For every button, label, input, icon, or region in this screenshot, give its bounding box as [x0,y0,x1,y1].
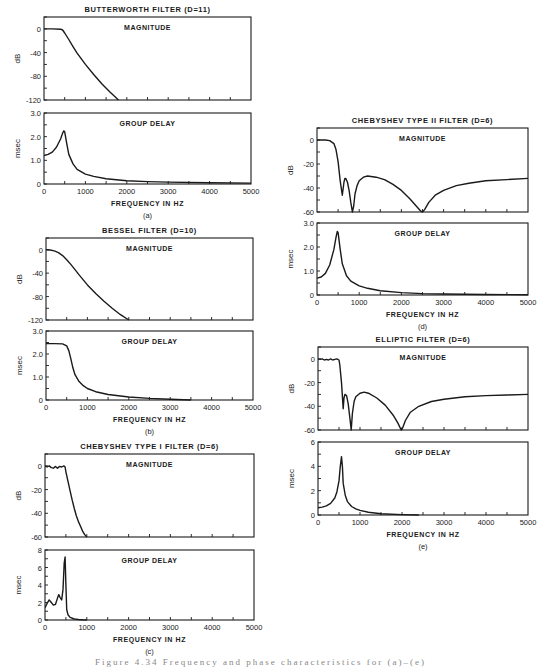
data-curve [44,29,119,100]
y-axis-label: msec [13,139,22,158]
chart-title: BESSEL FILTER (D=10) [102,226,197,235]
y-tick-label: 3.0 [304,219,314,228]
x-axis-label: FREQUENCY IN HZ [386,311,459,319]
panel-group-delay: 0246msecGROUP DELAY [287,438,528,520]
x-tick-label: 1000 [79,403,96,412]
y-tick-label: 0 [37,25,41,34]
chart-title: CHEBYSHEV TYPE II FILTER (D=6) [352,116,493,125]
panel-magnitude: 0-40-80-120dBMAGNITUDE [13,17,251,105]
y-axis-label: dB [287,384,296,394]
x-tick-label: 0 [315,298,319,307]
data-curve [44,131,251,183]
y-tick-label: -40 [303,184,314,193]
y-tick-label: -40 [304,402,315,411]
y-tick-label: 3.0 [31,109,41,118]
y-tick-label: 0 [37,180,41,189]
y-tick-label: 0 [310,291,314,300]
panel-name: GROUP DELAY [121,557,177,564]
chart-a: BUTTERWORTH FILTER (D=11)0-40-80-120dBMA… [13,5,259,220]
x-tick-label: 0 [43,623,47,632]
subfigure-label: (e) [418,542,428,551]
y-tick-label: 0 [39,396,43,405]
panel-group-delay: 01.02.03.0msecGROUP DELAY [286,219,528,300]
panel-magnitude: 0-40-80-120dBMAGNITUDE [15,238,253,325]
y-tick-label: 1.0 [304,267,314,276]
subfigure-label: (c) [145,647,154,656]
y-tick-label: 2.0 [33,350,43,359]
x-axis-label: FREQUENCY IN HZ [113,636,186,644]
x-tick-label: 5000 [246,623,263,632]
x-tick-label: 0 [42,187,46,196]
y-axis-label: dB [15,274,24,284]
y-tick-label: -80 [30,72,41,81]
x-tick-label: 3000 [436,518,453,527]
y-axis-label: msec [15,356,24,375]
y-tick-label: -60 [304,426,315,435]
chart-d: CHEBYSHEV TYPE II FILTER (D=6)0-20-40-60… [286,116,536,331]
data-curve [46,250,129,320]
data-curve [317,231,528,294]
subfigure-label: (b) [145,427,155,436]
panel-name: MAGNITUDE [400,354,447,361]
x-tick-label: 4000 [203,403,220,412]
x-tick-label: 2000 [118,187,135,196]
y-axis-label: dB [14,491,23,501]
x-tick-label: 3000 [162,623,179,632]
x-tick-label: 3000 [435,298,452,307]
y-axis-label: msec [286,249,295,268]
panel-name: MAGNITUDE [124,24,171,31]
y-tick-label: 0 [39,246,43,255]
panel-magnitude: 0-20-40-60dBMAGNITUDE [286,128,528,217]
y-axis-label: msec [287,469,296,488]
y-axis-label: msec [14,575,23,594]
y-tick-label: -40 [32,269,43,278]
panel-group-delay: 01.02.03.0msecGROUP DELAY [13,109,251,189]
x-tick-label: 2000 [120,623,137,632]
y-tick-label: -20 [31,486,42,495]
y-tick-label: -20 [303,160,314,169]
panel-name: MAGNITUDE [399,135,446,142]
y-tick-label: 2.0 [304,243,314,252]
y-tick-label: 0 [311,511,315,520]
panel-name: MAGNITUDE [126,245,173,252]
data-curve [317,140,528,212]
y-tick-label: 6 [311,438,315,447]
subfigure-label: (a) [143,211,153,220]
panel-name: GROUP DELAY [394,230,450,237]
y-tick-label: 3.0 [33,327,43,336]
y-tick-label: 1.0 [33,373,43,382]
x-tick-label: 3000 [160,187,177,196]
x-tick-label: 5000 [520,298,537,307]
panel-group-delay: 02468msecGROUP DELAY [14,546,254,625]
y-axis-label: dB [286,165,295,175]
y-tick-label: -20 [304,379,315,388]
subfigure-label: (d) [418,322,428,331]
panel-magnitude: 0-20-40-60dBMAGNITUDE [287,347,528,435]
x-tick-label: 5000 [243,187,260,196]
y-tick-label: 2 [311,487,315,496]
x-tick-label: 1000 [77,187,94,196]
panel-name: GROUP DELAY [119,120,175,127]
y-tick-label: 2.0 [31,133,41,142]
y-tick-label: 4 [311,462,315,471]
x-tick-label: 4000 [204,623,221,632]
y-tick-label: 0 [38,616,42,625]
x-tick-label: 4000 [477,298,494,307]
panel-magnitude: 0-20-40-60dBMAGNITUDE [14,454,254,542]
x-axis-label: FREQUENCY IN HZ [386,531,459,539]
y-tick-label: 0 [310,136,314,145]
x-tick-label: 1000 [352,518,369,527]
x-tick-label: 5000 [520,518,537,527]
data-curve [318,457,419,515]
y-tick-label: 0 [311,355,315,364]
panel-name: MAGNITUDE [126,461,173,468]
figure-caption: Figure 4.34 Frequency and phase characte… [95,657,515,667]
x-tick-label: 1000 [351,298,368,307]
x-tick-label: 0 [316,518,320,527]
y-tick-label: -40 [31,509,42,518]
x-tick-label: 4000 [201,187,218,196]
panel-name: GROUP DELAY [395,449,451,456]
x-axis-label: FREQUENCY IN HZ [111,200,184,208]
x-tick-label: 1000 [78,623,95,632]
